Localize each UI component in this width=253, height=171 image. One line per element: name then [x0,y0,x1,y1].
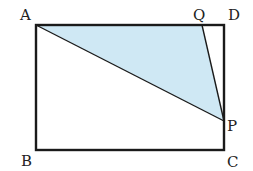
label-b: B [21,152,32,170]
label-d: D [228,6,240,24]
label-p: P [227,117,237,135]
label-q: Q [193,6,205,24]
label-a: A [19,6,31,24]
label-c: C [227,153,238,171]
geometry-diagram: A Q D P B C [0,0,253,171]
